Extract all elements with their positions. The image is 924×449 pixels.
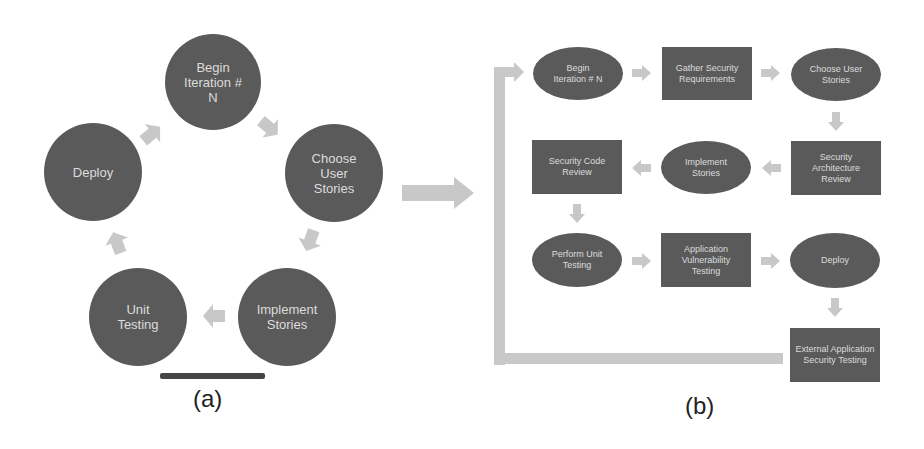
arrow-icon	[101, 228, 131, 258]
node-security-architecture-review: Security Architecture Review	[791, 141, 881, 195]
arrow-icon	[827, 298, 843, 318]
node-perform-unit-testing: Perform Unit Testing	[532, 233, 622, 287]
arrow-icon	[500, 62, 526, 82]
node-label: Deploy	[73, 165, 113, 180]
arrow-icon	[761, 65, 781, 81]
node-begin-iteration: Begin Iteration # N	[165, 34, 261, 130]
node-label: External Application Security Testing	[794, 344, 876, 366]
arrow-icon	[761, 253, 781, 269]
node-application-vulnerability-testing: Application Vulnerability Testing	[661, 233, 751, 287]
node-implement-stories: Implement Stories	[661, 141, 751, 194]
underline-bar	[160, 373, 265, 379]
node-label: Implement Stories	[251, 302, 323, 332]
node-external-application-security-testing: External Application Security Testing	[790, 328, 880, 382]
node-label: Security Code Review	[545, 156, 609, 178]
node-security-code-review: Security Code Review	[532, 140, 622, 194]
big-arrow-icon	[400, 175, 476, 211]
node-begin-iteration: Begin Iteration # N	[533, 47, 623, 100]
arrow-icon	[762, 160, 782, 176]
arrow-icon	[828, 112, 844, 132]
node-label: Choose User Stories	[304, 151, 364, 196]
loop-bar-vertical	[494, 67, 505, 365]
node-label: Choose User Stories	[806, 64, 866, 86]
node-gather-security-requirements: Gather Security Requirements	[662, 47, 752, 100]
arrow-icon	[136, 118, 166, 148]
node-label: Perform Unit Testing	[549, 249, 605, 271]
arrow-icon	[255, 112, 285, 142]
node-unit-testing: Unit Testing	[89, 268, 187, 366]
node-label: Unit Testing	[110, 302, 166, 332]
node-label: Implement Stories	[681, 157, 731, 179]
arrow-icon	[632, 160, 652, 176]
node-label: Gather Security Requirements	[669, 63, 745, 85]
node-label: Security Architecture Review	[808, 152, 864, 185]
node-choose-user-stories: Choose User Stories	[791, 48, 881, 101]
node-label: Begin Iteration # N	[183, 60, 243, 105]
node-label: Begin Iteration # N	[553, 63, 603, 85]
node-deploy: Deploy	[44, 123, 142, 221]
caption-a: (a)	[193, 385, 222, 413]
node-deploy: Deploy	[790, 233, 880, 288]
arrow-icon	[569, 204, 585, 224]
node-label: Deploy	[821, 255, 849, 266]
node-choose-user-stories: Choose User Stories	[285, 124, 383, 222]
loop-bar-horizontal	[494, 353, 783, 364]
node-implement-stories: Implement Stories	[238, 268, 336, 366]
node-label: Application Vulnerability Testing	[678, 244, 734, 277]
arrow-icon	[199, 302, 229, 332]
arrow-icon	[632, 253, 652, 269]
caption-b: (b)	[685, 392, 714, 420]
arrow-icon	[632, 65, 652, 81]
arrow-icon	[296, 226, 326, 256]
